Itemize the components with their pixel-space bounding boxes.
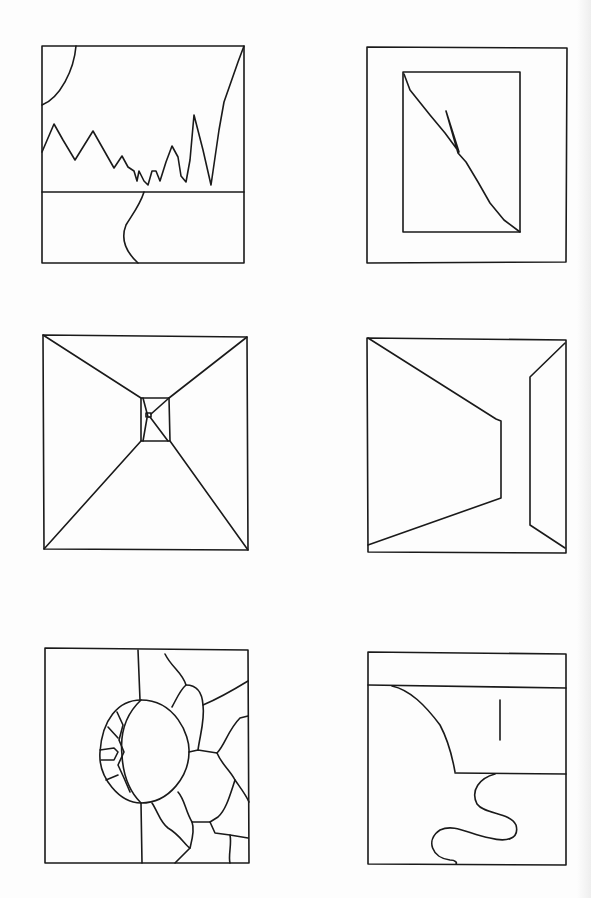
sketch-grid [0,0,591,898]
sketch-page [0,0,591,898]
river-curve [432,774,517,864]
wall-crack-1 [165,654,186,707]
diagonal-bolt [404,74,520,232]
panel-6-frame [368,652,566,865]
wall-crack-10 [229,835,230,863]
panel-2-frame [367,47,567,263]
panel-6-cliff-river [368,652,566,865]
inner-line-3 [143,418,147,441]
diagonal-bottom-left [44,441,141,549]
wall-seam-bottom [141,803,142,863]
wall-crack-5 [217,753,249,802]
sphere-facet-1 [117,712,130,792]
wall-crack-8 [152,803,190,863]
panel-5-sphere-cracked-wall [45,648,249,863]
sphere-facet-2 [100,748,118,760]
sphere-facet-4 [106,775,118,780]
diagonal-top-right [169,337,247,398]
wall-crack-7 [178,792,248,838]
panel-1-mountain-landscape [42,46,244,263]
wall-crack-3 [203,681,248,705]
inner-line-4 [150,417,168,441]
sphere-facet-3 [108,727,118,738]
panel-4-perspective-room [367,338,566,553]
diagonal-top-left [43,335,141,398]
diagonal-bottom-right [170,441,248,550]
inner-line-2 [151,398,169,414]
panel-2-framed-bolt [367,47,567,263]
sphere-outline [100,700,189,803]
panel-3-frame [43,335,248,550]
left-wall [368,338,501,545]
sun-arc [42,46,76,105]
panel-2-inner-frame [403,72,520,232]
road-curve [124,192,144,263]
right-wall [530,343,565,548]
wall-crack-6 [210,780,235,822]
wall-crack-2 [186,685,203,750]
panel-3-perspective-tunnel [43,335,248,550]
cliff-edge [392,686,455,772]
wall-crack-9 [190,822,193,848]
ledge-line [455,773,566,774]
wall-seam-top [138,650,140,700]
